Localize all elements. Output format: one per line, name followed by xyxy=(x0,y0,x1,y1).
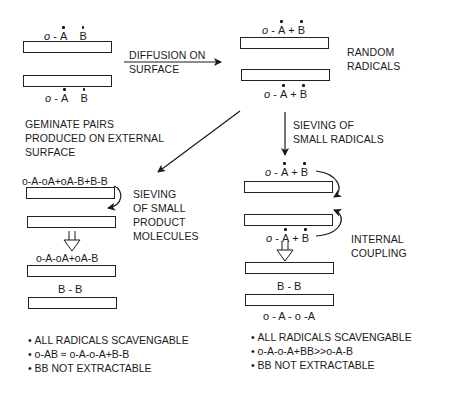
right-bullet-2: o-A-o-A+BB>>o-A-B xyxy=(251,344,412,358)
diffusion-label-line2: SURFACE xyxy=(129,63,179,76)
left-bullet-list: ALL RADICALS SCAVENGABLE o-AB ≈ o-A-o-A+… xyxy=(28,333,189,375)
geminate-label-line1: GEMINATE PAIRS xyxy=(25,118,114,131)
right-bullet-1: ALL RADICALS SCAVENGABLE xyxy=(251,330,412,344)
random-radicals-line1: RANDOM xyxy=(347,46,394,59)
left-hollow-arrow xyxy=(64,231,80,251)
sieving-product-line3: PRODUCT xyxy=(133,216,186,229)
right-formula-2: o - A + B xyxy=(266,232,309,244)
bond: - xyxy=(270,88,280,100)
internal-coupling-line1: INTERNAL xyxy=(351,233,404,246)
bond: - xyxy=(271,166,281,178)
diagram-canvas: o - A B o - A B DIFFUSION ON SURFACE o -… xyxy=(0,0,450,394)
random-radicals-line2: RADICALS xyxy=(347,60,400,73)
right-bullet-3: BB NOT EXTRACTABLE xyxy=(251,358,412,372)
sieving-product-line1: SIEVING xyxy=(133,188,176,201)
zeolite-plate xyxy=(244,214,333,226)
top-left-formula-bottom: o - A B xyxy=(45,92,88,104)
zeolite-plate xyxy=(245,294,334,306)
right-formula-3: B - B xyxy=(277,280,301,292)
sieving-radicals-line1: SIEVING OF xyxy=(293,119,354,132)
radical-b: B xyxy=(301,166,308,178)
internal-coupling-line2: COUPLING xyxy=(351,247,407,260)
plus: + xyxy=(287,88,300,100)
zeolite-plate xyxy=(26,187,115,199)
zeolite-plate xyxy=(240,37,329,49)
radical-b: B xyxy=(302,232,309,244)
radical-a: A xyxy=(278,24,285,36)
left-formula-3: B - B xyxy=(58,283,82,295)
left-formula-1: o-A-oA+oA-B+B-B xyxy=(22,175,108,187)
radical-b: B xyxy=(298,24,305,36)
sieving-radicals-line2: SMALL RADICALS xyxy=(293,133,384,146)
bond: - xyxy=(272,232,282,244)
zeolite-plate xyxy=(244,181,333,193)
radical-a: A xyxy=(281,166,288,178)
radical-b: B xyxy=(80,92,87,104)
geminate-label-line3: SURFACE xyxy=(25,146,75,159)
zeolite-plate xyxy=(28,297,117,309)
zeolite-plate xyxy=(241,69,330,81)
plus: + xyxy=(285,24,298,36)
radical-a: A xyxy=(282,232,289,244)
geminate-label-line2: PRODUCED ON EXTERNAL xyxy=(25,132,164,145)
left-bullet-3: BB NOT EXTRACTABLE xyxy=(28,361,189,375)
zeolite-plate xyxy=(23,75,112,87)
top-right-formula-top: o - A + B xyxy=(262,24,305,36)
right-formula-1: o - A + B xyxy=(265,166,308,178)
geminate-arrow xyxy=(158,111,240,172)
radical-a: A xyxy=(280,88,287,100)
bond: - xyxy=(268,24,278,36)
sieving-product-line2: OF SMALL xyxy=(133,202,186,215)
left-formula-2: o-A-oA+oA-B xyxy=(36,252,98,264)
left-bullet-2: o-AB ≈ o-A-o-A+B-B xyxy=(28,347,189,361)
zeolite-plate xyxy=(245,262,334,274)
left-bullet-1: ALL RADICALS SCAVENGABLE xyxy=(28,333,189,347)
right-formula-4: o - A - o -A xyxy=(263,310,315,322)
diffusion-label-line1: DIFFUSION ON xyxy=(129,49,205,62)
zeolite-plate xyxy=(27,265,116,277)
right-bullet-list: ALL RADICALS SCAVENGABLE o-A-o-A+BB>>o-A… xyxy=(251,330,412,372)
bond: - xyxy=(51,92,61,104)
top-right-formula-bottom: o - A + B xyxy=(264,88,307,100)
right-hollow-arrow xyxy=(277,241,293,261)
plus: + xyxy=(289,232,302,244)
radical-a: A xyxy=(61,92,68,104)
zeolite-plate xyxy=(23,41,112,53)
plus: + xyxy=(288,166,301,178)
radical-b: B xyxy=(300,88,307,100)
zeolite-plate xyxy=(27,216,116,228)
sieving-product-line4: MOLECULES xyxy=(133,230,199,243)
